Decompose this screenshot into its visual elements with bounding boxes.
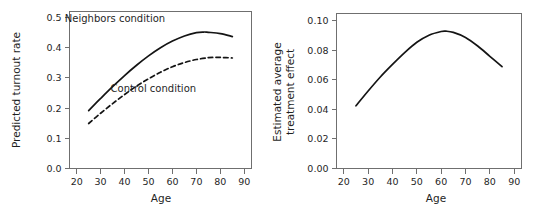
y-tick-label: 0.10	[307, 15, 328, 26]
y-tick-label: 0.1	[46, 133, 61, 144]
y-tick-label: 0.04	[307, 104, 328, 115]
series-group	[356, 31, 502, 106]
x-axis-right-panel: 2030405060708090 Age	[338, 169, 520, 205]
x-tick-label: 30	[95, 176, 107, 187]
x-tick-label: 50	[411, 176, 423, 187]
series-group	[89, 32, 233, 123]
x-tick-label: 60	[166, 176, 178, 187]
series-label: Neighbors condition	[65, 13, 165, 24]
x-axis-title: Age	[151, 192, 171, 204]
x-tick-label: 70	[459, 176, 471, 187]
predicted-turnout-rate-chart: 0.00.10.20.30.40.5 Predicted turnout rat…	[0, 0, 272, 218]
y-tick-label: 0.0	[46, 163, 61, 174]
chart-panel-left: 0.00.10.20.30.40.5 Predicted turnout rat…	[0, 0, 272, 218]
y-tick-group: 0.00.10.20.30.40.5	[46, 12, 69, 174]
y-tick-label: 0.4	[46, 42, 61, 53]
x-tick-label: 20	[71, 176, 83, 187]
y-axis-right-panel: 0.000.020.040.060.080.10 Estimated avera…	[271, 15, 337, 174]
x-tick-label: 20	[338, 176, 350, 187]
y-tick-label: 0.3	[46, 72, 61, 83]
y-axis-title-line2: treatment effect	[284, 49, 296, 135]
x-tick-label: 60	[435, 176, 447, 187]
y-tick-label: 0.2	[46, 103, 61, 114]
y-tick-label: 0.00	[307, 163, 328, 174]
x-tick-label: 40	[386, 176, 398, 187]
x-axis-title: Age	[426, 192, 446, 204]
x-tick-label: 80	[214, 176, 226, 187]
plot-frame	[337, 14, 522, 169]
y-tick-label: 0.5	[46, 12, 61, 23]
y-axis-left: 0.00.10.20.30.40.5 Predicted turnout rat…	[10, 12, 70, 174]
annotation-group: Neighbors conditionControl condition	[65, 13, 196, 93]
x-tick-group: 2030405060708090	[338, 169, 520, 187]
x-tick-label: 70	[190, 176, 202, 187]
x-axis-left: 2030405060708090 Age	[71, 169, 251, 205]
x-tick-label: 50	[142, 176, 154, 187]
y-tick-label: 0.06	[307, 74, 328, 85]
x-tick-label: 90	[508, 176, 520, 187]
y-tick-label: 0.02	[307, 133, 328, 144]
y-axis-title-line1: Estimated average	[271, 42, 283, 141]
chart-panel-right: 0.000.020.040.060.080.10 Estimated avera…	[271, 0, 543, 218]
y-tick-label: 0.08	[307, 45, 328, 56]
estimated-treatment-effect-chart: 0.000.020.040.060.080.10 Estimated avera…	[271, 0, 543, 218]
series-label: Control condition	[111, 83, 197, 94]
x-tick-label: 80	[484, 176, 496, 187]
y-axis-title: Predicted turnout rate	[10, 32, 22, 148]
figure-container: 0.00.10.20.30.40.5 Predicted turnout rat…	[0, 0, 543, 218]
x-tick-label: 30	[362, 176, 374, 187]
x-tick-group: 2030405060708090	[71, 169, 251, 187]
x-tick-label: 90	[238, 176, 250, 187]
x-tick-label: 40	[119, 176, 131, 187]
y-tick-group: 0.000.020.040.060.080.10	[307, 15, 336, 174]
series-line-estimated-average-treatment-effect	[356, 31, 502, 106]
